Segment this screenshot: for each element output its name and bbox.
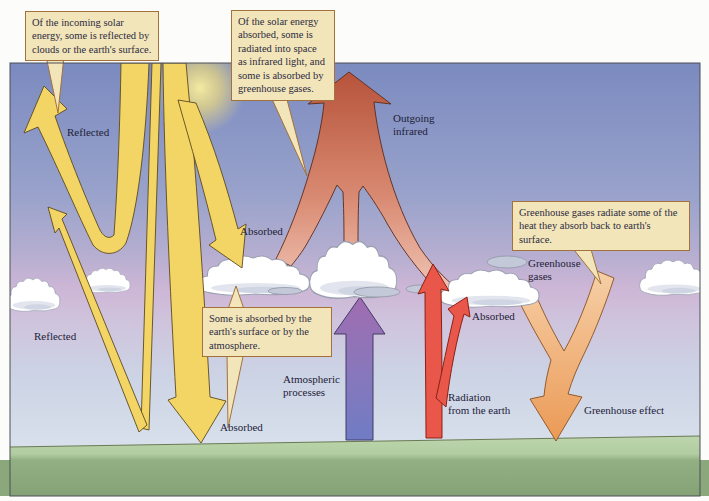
callout-greenhouse-radiate: Greenhouse gases radiate some of the hea… (512, 201, 690, 251)
callout-solar-absorbed: Of the solar energy absorbed, some is ra… (231, 10, 335, 101)
callout-incoming-solar: Of the incoming solar energy, some is re… (25, 11, 159, 61)
label-greenhouse-effect: Greenhouse effect (584, 404, 664, 417)
label-atmospheric-processes: Atmospheric processes (283, 373, 340, 399)
label-line: from the earth (448, 404, 510, 417)
label-line: Radiation (448, 391, 510, 404)
label-radiation-from-earth: Radiation from the earth (448, 391, 510, 417)
label-outgoing-infrared: Outgoing infrared (393, 112, 435, 138)
label-line: Atmospheric (283, 373, 340, 386)
label-line: Outgoing (393, 112, 435, 125)
label-line: gases (528, 270, 581, 283)
label-absorbed-ground: Absorbed (220, 421, 263, 434)
gray-cloud-wisp (487, 256, 527, 268)
label-line: infrared (393, 125, 435, 138)
label-reflected-top: Reflected (67, 126, 109, 139)
label-line: processes (283, 386, 340, 399)
label-absorbed-cloud: Absorbed (240, 225, 283, 238)
callout-surface-absorb: Some is absorbed by the earth's surface … (202, 307, 332, 357)
label-line: Greenhouse (528, 257, 581, 270)
greenhouse-effect-diagram: Of the incoming solar energy, some is re… (0, 0, 709, 501)
label-reflected-surface: Reflected (34, 330, 76, 343)
label-absorbed-greenhouse: Absorbed (472, 310, 515, 323)
gray-cloud-wisp (354, 287, 400, 297)
label-greenhouse-gases: Greenhouse gases (528, 257, 581, 283)
gray-cloud-wisp (268, 288, 302, 295)
